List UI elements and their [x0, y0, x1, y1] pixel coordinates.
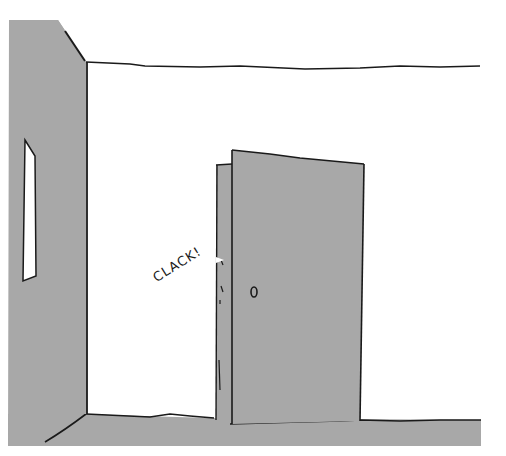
illustration-scene: CLACK! [0, 0, 506, 456]
left-wall [8, 20, 87, 446]
room-drawing [0, 0, 506, 456]
door-ajar [232, 150, 364, 424]
ceiling-line [86, 62, 480, 69]
wall-window [23, 140, 36, 281]
door-edge [216, 164, 232, 420]
